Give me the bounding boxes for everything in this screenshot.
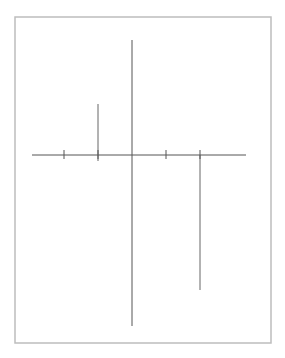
figure-frame — [15, 17, 271, 343]
area-between-curves-figure — [0, 0, 285, 358]
